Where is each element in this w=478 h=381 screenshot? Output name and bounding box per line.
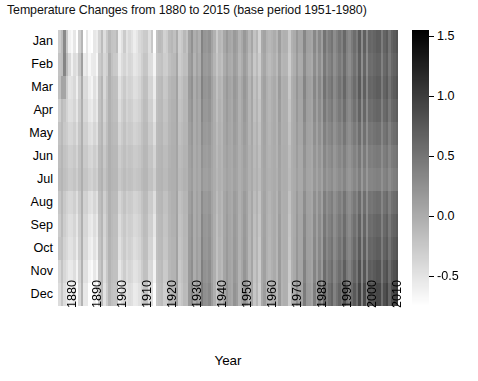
colorbar (412, 30, 429, 306)
y-tick-aug: Aug (31, 191, 53, 214)
colorbar-tick-label-2: 0.5 (437, 150, 455, 162)
y-tick-sep: Sep (31, 214, 53, 237)
x-axis-title: Year (58, 353, 398, 368)
colorbar-tick-mark-1 (429, 96, 434, 97)
x-tick-1890: 1890 (90, 280, 104, 308)
colorbar-tick-mark-2 (429, 156, 434, 157)
x-tick-1880: 1880 (65, 280, 79, 308)
heatmap-plot-area (58, 30, 398, 306)
heatmap-figure: Temperature Changes from 1880 to 2015 (b… (0, 0, 478, 381)
x-tick-1910: 1910 (140, 280, 154, 308)
y-tick-may: May (29, 122, 53, 145)
y-tick-nov: Nov (31, 260, 53, 283)
x-tick-1950: 1950 (240, 280, 254, 308)
y-tick-oct: Oct (33, 237, 53, 260)
y-tick-jan: Jan (33, 30, 53, 53)
colorbar-tick-label-3: 0.0 (437, 210, 455, 222)
y-tick-dec: Dec (31, 283, 53, 306)
y-tick-jun: Jun (33, 145, 53, 168)
y-axis-month-labels: JanFebMarAprMayJunJulAugSepOctNovDec (0, 30, 53, 306)
x-tick-1900: 1900 (115, 280, 129, 308)
y-tick-apr: Apr (33, 99, 53, 122)
colorbar-tick-mark-0 (429, 36, 434, 37)
colorbar-tick-mark-4 (429, 276, 434, 277)
y-tick-jul: Jul (37, 168, 53, 191)
x-axis-year-labels: 1880189019001910192019301940195019601970… (58, 306, 398, 354)
x-tick-1940: 1940 (215, 280, 229, 308)
x-tick-1920: 1920 (165, 280, 179, 308)
colorbar-gradient (412, 30, 429, 306)
x-tick-2000: 2000 (365, 280, 379, 308)
y-tick-feb: Feb (31, 53, 53, 76)
y-tick-mar: Mar (31, 76, 53, 99)
x-tick-1980: 1980 (315, 280, 329, 308)
x-tick-1930: 1930 (190, 280, 204, 308)
x-tick-2010: 2010 (390, 280, 404, 308)
colorbar-tick-label-1: 1.0 (437, 90, 455, 102)
x-tick-1990: 1990 (340, 280, 354, 308)
x-tick-1970: 1970 (290, 280, 304, 308)
colorbar-tick-label-4: -0.5 (437, 270, 459, 282)
chart-title: Temperature Changes from 1880 to 2015 (b… (7, 2, 471, 18)
x-tick-1960: 1960 (265, 280, 279, 308)
colorbar-tick-mark-3 (429, 216, 434, 217)
heatmap-cells (58, 30, 398, 306)
colorbar-tick-label-0: 1.5 (437, 30, 455, 42)
